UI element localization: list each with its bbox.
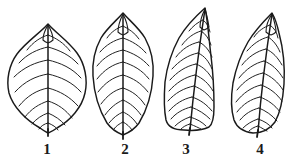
- leaf-label-4: 4: [256, 141, 264, 157]
- leaf-label-1: 1: [43, 141, 51, 157]
- leaf-petiole-4: [257, 130, 258, 137]
- leaf-label-2: 2: [121, 141, 129, 157]
- leaf-label-3: 3: [182, 141, 190, 157]
- leaf-petiole-3: [189, 128, 190, 135]
- leaf-diagram: 1234: [0, 0, 291, 162]
- leaf-figure-container: 1234: [0, 0, 291, 162]
